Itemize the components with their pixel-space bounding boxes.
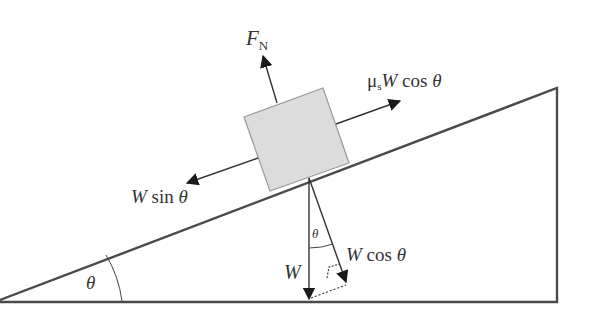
friction-force-arrow	[336, 101, 400, 124]
incline-angle-label: θ	[86, 272, 95, 293]
inner-angle-label: θ	[312, 226, 319, 241]
inner-angle-arc	[309, 244, 333, 248]
parallel-weight-arrow	[187, 158, 258, 183]
friction-force-label: μsW cos θ	[367, 70, 441, 92]
perpendicular-weight-label: W cos θ	[346, 244, 406, 265]
incline-force-diagram: FN μsW cos θ W sin θ W W cos θ θ θ	[0, 0, 595, 319]
parallel-weight-label: W sin θ	[131, 186, 188, 207]
incline-angle-arc	[106, 255, 122, 301]
normal-force-arrow	[263, 56, 277, 103]
normal-force-label: FN	[245, 26, 269, 53]
weight-label: W	[284, 261, 303, 283]
block	[244, 88, 349, 191]
